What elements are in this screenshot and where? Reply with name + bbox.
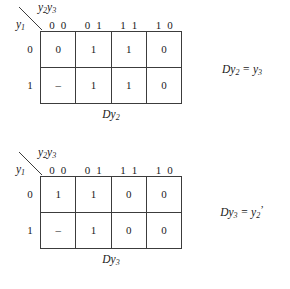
kmap-cell: – <box>41 213 75 248</box>
column-variable-label: y2y3 <box>38 146 56 160</box>
column-header: 0 0 <box>40 164 76 176</box>
kmap-cell: 1 <box>111 32 146 67</box>
kmap-cell: 0 <box>41 32 75 67</box>
kmap-cell: 0 <box>146 32 181 67</box>
column-header: 1 0 <box>147 164 183 176</box>
column-header: 1 0 <box>147 19 183 31</box>
kmap-caption: Dy2 <box>40 108 182 122</box>
table-row: 1 1 0 0 <box>41 177 181 212</box>
kmap-cell: 1 <box>41 177 75 212</box>
kmap-cell: 1 <box>111 68 146 103</box>
kmap-cell: – <box>41 68 75 103</box>
column-header: 0 1 <box>76 164 112 176</box>
row-header: 1 <box>24 224 36 236</box>
column-header: 1 1 <box>111 164 147 176</box>
kmap-caption: Dy3 <box>40 253 182 267</box>
table-row: – 1 1 0 <box>41 67 181 103</box>
row-header: 0 <box>24 188 36 200</box>
row-header: 1 <box>24 79 36 91</box>
column-headers: 0 0 0 1 1 1 1 0 <box>40 19 182 31</box>
boolean-equation: Dy2 = y3 <box>196 60 288 77</box>
kmap-cell: 0 <box>146 68 181 103</box>
kmap-grid: 0 1 1 0 – 1 1 0 <box>40 31 182 104</box>
table-row: – 1 0 0 <box>41 212 181 248</box>
kmap-grid: 1 1 0 0 – 1 0 0 <box>40 176 182 249</box>
table-row: 0 1 1 0 <box>41 32 181 67</box>
column-header: 0 0 <box>40 19 76 31</box>
kmap-cell: 1 <box>75 213 110 248</box>
kmap-cell: 0 <box>146 213 181 248</box>
kmap-cell: 0 <box>111 213 146 248</box>
kmap-cell: 1 <box>75 32 110 67</box>
kmap-cell: 1 <box>75 177 110 212</box>
kmap-cell: 1 <box>75 68 110 103</box>
kmap-cell: 0 <box>111 177 146 212</box>
column-variable-label: y2y3 <box>38 1 56 15</box>
column-header: 0 1 <box>76 19 112 31</box>
column-headers: 0 0 0 1 1 1 1 0 <box>40 164 182 176</box>
row-variable-label: y1 <box>16 163 25 177</box>
row-header: 0 <box>24 43 36 55</box>
kmap-cell: 0 <box>146 177 181 212</box>
boolean-equation: Dy3 = y2’ <box>196 203 288 220</box>
row-variable-label: y1 <box>16 18 25 32</box>
column-header: 1 1 <box>111 19 147 31</box>
